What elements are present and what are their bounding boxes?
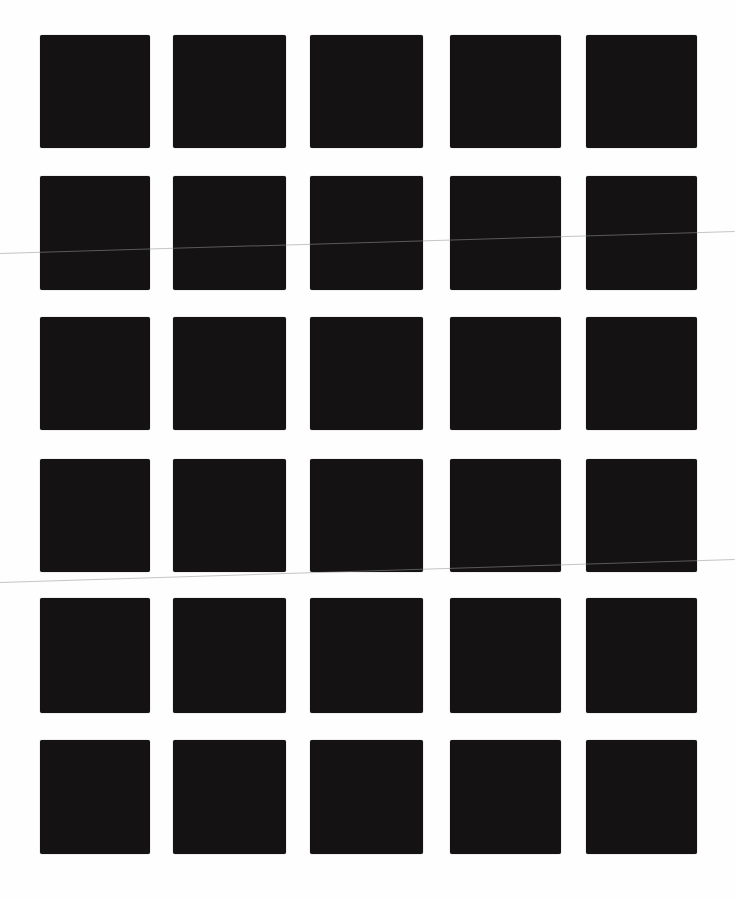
black-square-r3-c3	[310, 317, 423, 430]
black-square-r4-c2	[173, 459, 286, 572]
black-square-r3-c5	[586, 317, 697, 430]
black-square-r5-c3	[310, 598, 423, 713]
black-square-r2-c1	[40, 176, 150, 290]
black-square-r5-c4	[450, 598, 561, 713]
black-square-r6-c3	[310, 740, 423, 854]
black-square-r6-c1	[40, 740, 150, 854]
black-square-r4-c1	[40, 459, 150, 572]
black-square-r1-c2	[173, 35, 286, 148]
black-square-r1-c5	[586, 35, 697, 148]
black-square-r5-c5	[586, 598, 697, 713]
black-square-r6-c4	[450, 740, 561, 854]
black-square-r3-c4	[450, 317, 561, 430]
black-square-r2-c3	[310, 176, 423, 290]
black-square-r2-c4	[450, 176, 561, 290]
black-square-r1-c3	[310, 35, 423, 148]
black-square-r5-c1	[40, 598, 150, 713]
black-square-r3-c1	[40, 317, 150, 430]
black-square-r4-c4	[450, 459, 561, 572]
black-square-r6-c2	[173, 740, 286, 854]
black-square-r3-c2	[173, 317, 286, 430]
black-square-r5-c2	[173, 598, 286, 713]
black-square-r1-c1	[40, 35, 150, 148]
black-square-r6-c5	[586, 740, 697, 854]
scanned-page	[0, 0, 735, 900]
black-square-r2-c2	[173, 176, 286, 290]
black-square-r4-c3	[310, 459, 423, 572]
black-square-r1-c4	[450, 35, 561, 148]
black-square-r4-c5	[586, 459, 697, 572]
